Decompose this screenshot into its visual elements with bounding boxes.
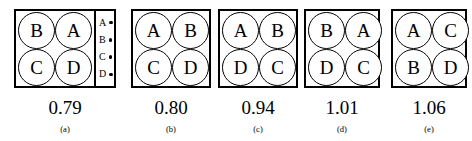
legend-item-label: B [99, 35, 106, 45]
cell: C [432, 12, 469, 49]
panel-d-cells: B A D C [306, 11, 384, 86]
cell: B [259, 12, 296, 49]
panel-value: 0.79 [48, 98, 81, 117]
panel-d: B A D C 1.01 (d) [304, 0, 380, 134]
cell: D [172, 49, 209, 86]
panel-c-box: A B D C [218, 9, 298, 88]
panel-e: A C B D 1.06 (e) [391, 0, 467, 134]
cell: D [55, 49, 92, 86]
panel-value: 1.01 [325, 98, 358, 117]
cell: A [135, 12, 172, 49]
figure-root: B A C D A B C D [0, 0, 472, 141]
cell: A [222, 12, 259, 49]
panel-a: B A C D A B C D [14, 0, 116, 134]
panel-value: 0.94 [241, 98, 274, 117]
panel-c-cells: A B D C [220, 11, 298, 86]
panel-a-box: B A C D A B C D [14, 9, 116, 88]
cell: C [345, 49, 382, 86]
panel-value: 1.06 [412, 98, 445, 117]
cell: A [395, 12, 432, 49]
panel-caption: (a) [60, 125, 69, 134]
legend-item: C [99, 49, 118, 65]
cell: D [308, 49, 345, 86]
legend-item-label: D [99, 69, 106, 79]
dot-marker-icon [109, 21, 113, 25]
cell: B [172, 12, 209, 49]
cell: C [135, 49, 172, 86]
legend-panel: A B C D [94, 11, 119, 86]
cell: B [308, 12, 345, 49]
legend-item: A [99, 15, 118, 31]
dot-marker-icon [109, 73, 113, 77]
panel-b-box: A B C D [131, 9, 211, 88]
legend-item-label: A [99, 18, 106, 28]
dot-marker-icon [109, 38, 113, 42]
panel-value: 0.80 [154, 98, 187, 117]
dot-marker-icon [109, 55, 113, 59]
panel-a-cells: B A C D [16, 11, 94, 86]
cell: B [18, 12, 55, 49]
cell: C [18, 49, 55, 86]
legend-item: B [99, 32, 118, 48]
panel-d-box: B A D C [304, 9, 380, 88]
panel-e-cells: A C B D [393, 11, 471, 86]
cell: D [222, 49, 259, 86]
panel-c: A B D C 0.94 (c) [218, 0, 298, 134]
cell: D [432, 49, 469, 86]
cell: A [55, 12, 92, 49]
panel-caption: (e) [424, 125, 433, 134]
legend-item-label: C [99, 52, 106, 62]
panel-caption: (c) [253, 125, 262, 134]
panel-e-box: A C B D [391, 9, 467, 88]
cell: B [395, 49, 432, 86]
legend-item: D [99, 66, 118, 82]
panel-caption: (b) [166, 125, 176, 134]
panel-caption: (d) [337, 125, 347, 134]
cell: C [259, 49, 296, 86]
cell: A [345, 12, 382, 49]
panel-b-cells: A B C D [133, 11, 211, 86]
panel-b: A B C D 0.80 (b) [131, 0, 211, 134]
